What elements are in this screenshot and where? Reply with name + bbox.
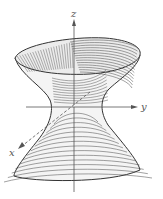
y-axis-arrowhead [131,105,138,109]
z-axis-label: z [70,8,77,19]
z-axis-arrowhead [72,19,76,26]
x-axis-arrowhead [18,142,25,149]
y-axis-label: y [140,101,147,112]
hyperboloid-figure: z y x [0,0,163,199]
x-axis-label: x [9,147,15,158]
hyperboloid-surface [4,38,152,182]
